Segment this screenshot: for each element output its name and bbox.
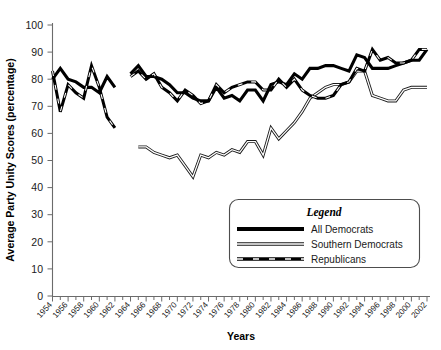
x-tick-label: 1954 [35, 300, 54, 320]
x-tick-label: 1980 [238, 300, 257, 320]
legend-label-all-democrats: All Democrats [311, 224, 373, 235]
x-tick-label: 1996 [363, 300, 382, 320]
y-tick-label: 10 [31, 263, 43, 275]
x-tick-label: 1968 [144, 300, 163, 320]
y-tick-label: 30 [31, 208, 43, 220]
x-tick-label: 2000 [394, 300, 413, 320]
y-tick-label: 90 [31, 46, 43, 58]
series-layer [53, 49, 428, 176]
y-tick-label: 80 [31, 73, 43, 85]
x-tick-label: 1998 [378, 300, 397, 320]
x-tick-label: 1964 [113, 300, 132, 320]
chart-page: 0102030405060708090100 19541956195819601… [0, 0, 441, 350]
x-tick-label: 1990 [316, 300, 335, 320]
x-tick-label: 1978 [222, 300, 241, 320]
x-tick-label: 1974 [191, 300, 210, 320]
y-axis-title: Average Party Unity Scores (percentage) [4, 58, 16, 261]
x-tick-label: 1972 [176, 300, 195, 320]
x-tick-label: 1988 [300, 300, 319, 320]
y-tick-label: 20 [31, 236, 43, 248]
x-tick-label: 1966 [129, 300, 148, 320]
party-unity-line-chart: 0102030405060708090100 19541956195819601… [0, 0, 441, 350]
x-tick-label: 1986 [285, 300, 304, 320]
x-tick-label: 1992 [332, 300, 351, 320]
x-axis-title: Years [227, 330, 255, 342]
series-line-inner [138, 71, 427, 177]
legend-title: Legend [305, 206, 341, 219]
x-axis-tick-labels: 1954195619581960196219641966196819701972… [35, 300, 429, 320]
y-tick-label: 60 [31, 127, 43, 139]
x-tick-label: 1982 [254, 300, 273, 320]
x-tick-label: 1976 [207, 300, 226, 320]
x-tick-label: 1958 [66, 300, 85, 320]
y-axis-ticks [48, 25, 53, 296]
x-tick-label: 1970 [160, 300, 179, 320]
legend: Legend All Democrats Southern Democrats … [230, 200, 420, 268]
x-tick-label: 2002 [410, 300, 429, 320]
x-tick-label: 1962 [98, 300, 117, 320]
y-tick-label: 0 [37, 290, 43, 302]
legend-label-republicans: Republicans [311, 254, 366, 265]
y-tick-label: 70 [31, 100, 43, 112]
x-tick-label: 1994 [347, 300, 366, 320]
y-tick-label: 40 [31, 181, 43, 193]
legend-label-southern-democrats: Southern Democrats [311, 239, 403, 250]
y-tick-label: 50 [31, 154, 43, 166]
y-tick-label: 100 [25, 19, 43, 31]
x-tick-label: 1956 [51, 300, 70, 320]
series-southern-democrats [138, 71, 427, 177]
x-tick-label: 1984 [269, 300, 288, 320]
x-tick-label: 1960 [82, 300, 101, 320]
y-axis-tick-labels: 0102030405060708090100 [25, 19, 43, 302]
